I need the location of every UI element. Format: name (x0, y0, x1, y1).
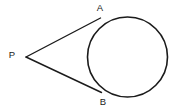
geometry-diagram: P A B (0, 0, 187, 112)
circle-shape (88, 17, 168, 97)
point-label-p: P (9, 49, 15, 60)
tangent-line-lower (26, 57, 102, 93)
point-label-a: A (97, 2, 104, 13)
diagram-canvas: P A B (0, 0, 187, 112)
point-label-b: B (100, 96, 106, 107)
tangent-line-upper (26, 18, 101, 57)
